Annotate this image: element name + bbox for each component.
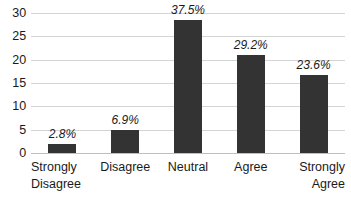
bar[interactable] bbox=[174, 20, 202, 153]
x-category-label-line2: Disagree bbox=[31, 176, 94, 193]
x-category-label-line1: Strongly bbox=[282, 159, 345, 176]
bar-slot: 2.8% bbox=[31, 13, 94, 153]
bar-slot: 29.2% bbox=[219, 13, 282, 153]
y-tick-label: 0 bbox=[0, 147, 26, 160]
bar-slot: 37.5% bbox=[157, 13, 220, 153]
bar[interactable] bbox=[300, 75, 328, 153]
bar-value-label: 29.2% bbox=[234, 39, 268, 51]
y-tick-label: 25 bbox=[0, 30, 26, 43]
x-category-label: StronglyDisagree bbox=[31, 159, 94, 193]
x-category-label-line1: Agree bbox=[219, 159, 282, 176]
x-category-label: Neutral bbox=[157, 159, 220, 176]
x-category-label: StronglyAgree bbox=[282, 159, 345, 193]
x-category-label: Disagree bbox=[94, 159, 157, 176]
bar-value-label: 6.9% bbox=[112, 114, 139, 126]
bar-value-label: 2.8% bbox=[49, 128, 76, 140]
y-tick-label: 20 bbox=[0, 54, 26, 67]
bar-value-label: 37.5% bbox=[171, 4, 205, 16]
x-axis-category-labels: StronglyDisagreeDisagreeNeutralAgreeStro… bbox=[31, 159, 345, 205]
y-tick-label: 10 bbox=[0, 100, 26, 113]
x-category-label-line1: Disagree bbox=[94, 159, 157, 176]
y-tick-label: 5 bbox=[0, 124, 26, 137]
bar[interactable] bbox=[48, 144, 76, 153]
bars-layer: 2.8%6.9%37.5%29.2%23.6% bbox=[31, 13, 345, 153]
x-category-label-line1: Neutral bbox=[157, 159, 220, 176]
bar-value-label: 23.6% bbox=[297, 59, 331, 71]
y-tick-label: 15 bbox=[0, 77, 26, 90]
x-category-label: Agree bbox=[219, 159, 282, 176]
bar-slot: 6.9% bbox=[94, 13, 157, 153]
bar-slot: 23.6% bbox=[282, 13, 345, 153]
axis-baseline bbox=[31, 153, 345, 154]
bar[interactable] bbox=[111, 130, 139, 153]
bar[interactable] bbox=[237, 55, 265, 153]
y-tick-label: 30 bbox=[0, 7, 26, 20]
x-category-label-line2: Agree bbox=[282, 176, 345, 193]
bar-chart: 302520151050 2.8%6.9%37.5%29.2%23.6% Str… bbox=[0, 0, 351, 208]
x-category-label-line1: Strongly bbox=[31, 159, 94, 176]
